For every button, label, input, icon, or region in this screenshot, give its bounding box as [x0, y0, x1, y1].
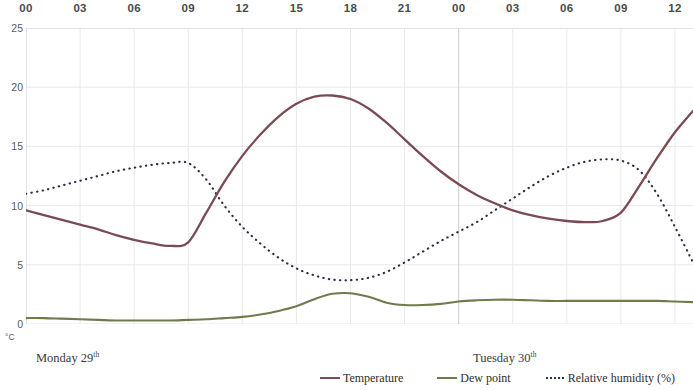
- time-axis-tick: 12: [236, 2, 249, 14]
- axis-lines: [26, 28, 693, 324]
- time-axis: 00030609121518210003060912: [0, 0, 693, 22]
- day-ordinal-suffix: th: [531, 350, 537, 359]
- day-label-monday: Monday 29th: [36, 350, 99, 366]
- time-axis-tick: 03: [73, 2, 86, 14]
- legend-label-dewpoint: Dew point: [460, 371, 510, 386]
- weather-chart: 00030609121518210003060912 2520151050 °C…: [0, 0, 693, 390]
- chart-legend: Temperature Dew point Relative humidity …: [0, 368, 693, 388]
- value-axis-tick: 25: [11, 22, 23, 34]
- value-axis-tick: 0: [17, 318, 23, 330]
- time-axis-tick: 09: [182, 2, 195, 14]
- time-axis-tick: 06: [127, 2, 140, 14]
- legend-item-humidity: Relative humidity (%): [545, 371, 675, 386]
- legend-item-dewpoint: Dew point: [437, 371, 510, 386]
- day-label-tuesday: Tuesday 30th: [473, 350, 536, 366]
- y-axis-unit-label: °C: [5, 332, 15, 342]
- time-axis-tick: 06: [560, 2, 573, 14]
- time-axis-tick: 18: [344, 2, 357, 14]
- value-axis-tick: 15: [11, 140, 23, 152]
- series-line-temperature: [26, 95, 693, 246]
- series-line-relative-humidity: [26, 159, 693, 280]
- time-axis-tick: 12: [668, 2, 681, 14]
- time-axis-tick: 15: [290, 2, 303, 14]
- dewpoint-line-icon: [437, 373, 457, 383]
- time-axis-tick: 09: [614, 2, 627, 14]
- value-axis-tick: 10: [11, 200, 23, 212]
- time-axis-tick: 03: [506, 2, 519, 14]
- legend-label-temperature: Temperature: [343, 371, 403, 386]
- day-ordinal-suffix: th: [93, 350, 99, 359]
- value-axis-tick: 20: [11, 81, 23, 93]
- time-axis-tick: 00: [452, 2, 465, 14]
- legend-label-humidity: Relative humidity (%): [568, 371, 675, 386]
- legend-item-temperature: Temperature: [320, 371, 403, 386]
- value-axis-tick: 5: [17, 259, 23, 271]
- series-line-dew-point: [26, 293, 693, 321]
- plot-svg: [26, 28, 693, 324]
- time-axis-tick: 21: [398, 2, 411, 14]
- plot-area: [26, 28, 693, 324]
- gridlines: [26, 28, 693, 324]
- temperature-line-icon: [320, 373, 340, 383]
- humidity-dotted-line-icon: [545, 373, 565, 383]
